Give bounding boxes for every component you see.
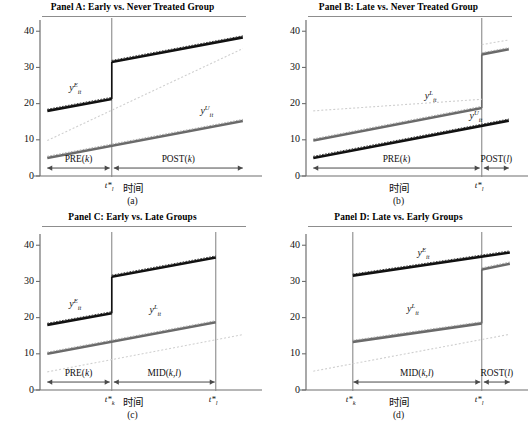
y-tick-label-40-a: 40: [6, 25, 34, 36]
span-label-close: ): [509, 154, 512, 164]
panel-d: Panel D: Late vs. Early Groups010203040y…: [266, 212, 531, 426]
y-tick-label-30-a: 30: [6, 61, 34, 72]
y-tick-label-0-a: 0: [6, 170, 34, 181]
y-tick-label-20-d: 20: [272, 311, 300, 322]
y-tick-label-10-b: 10: [272, 133, 300, 144]
series-0-seg-0-c: [47, 313, 111, 325]
span-arrowhead-0-0-d: [353, 379, 358, 384]
span-arrowhead-1-0-b: [484, 165, 489, 170]
series-label-subscript: it: [433, 96, 437, 103]
span-label-arg: k,l: [421, 368, 430, 378]
series-label-subscript: it: [415, 309, 419, 316]
span-label-text: MID(: [400, 368, 421, 378]
series-label-subscript: it: [78, 88, 82, 95]
span-label-close: ): [431, 368, 434, 378]
cut-label-k-c: t*k: [105, 394, 115, 406]
cut-label-l-a: t*l: [105, 180, 114, 192]
series-label-superscript: E: [422, 246, 426, 253]
series-label-L-b: yLit: [425, 89, 437, 103]
span-label-text: POST(: [162, 154, 188, 164]
cut-label-text: t*: [346, 394, 353, 404]
series-1-seg-0-b: [313, 121, 509, 158]
cut-label-subscript: l: [482, 185, 484, 192]
span-label-close: ): [407, 154, 410, 164]
span-arrowhead-1-1-b: [504, 165, 509, 170]
span-arrowhead-0-0-a: [47, 165, 52, 170]
y-tick-label-0-d: 0: [272, 384, 300, 395]
series-0-seg-1-a: [112, 37, 243, 62]
series-label-superscript: E: [74, 297, 78, 304]
span-label-1-a: POST(k): [152, 154, 204, 164]
span-arrowhead-1-0-a: [114, 165, 119, 170]
span-arrowhead-0-0-c: [47, 379, 52, 384]
span-label-0-b: PRE(k): [370, 154, 422, 164]
series-0-texture-0-b: [313, 106, 481, 139]
series-label-superscript: U: [205, 104, 210, 111]
y-tick-label-20-a: 20: [6, 97, 34, 108]
series-0-seg-0-b: [313, 108, 481, 141]
cut-label-subscript: l: [482, 399, 484, 406]
y-tick-label-10-c: 10: [6, 347, 34, 358]
series-0-texture-1-c: [112, 256, 216, 275]
series-1-texture-0-d: [353, 322, 482, 340]
series-label-E-d: yEit: [418, 246, 430, 260]
series-2-seg-1-b: [482, 40, 509, 45]
four-panel-figure: Panel A: Early vs. Never Treated Group01…: [0, 0, 531, 428]
series-label-L-d: yLit: [407, 302, 419, 316]
span-arrowhead-0-1-b: [475, 165, 480, 170]
cut-label-l-d: t*l: [475, 394, 484, 406]
x-axis-label-a: 时间: [123, 180, 143, 195]
series-label-subscript: it: [78, 304, 82, 311]
panel-caption-b: (b): [266, 195, 531, 206]
panel-c: Panel C: Early vs. Late Groups010203040y…: [0, 212, 265, 426]
y-tick-label-40-c: 40: [6, 239, 34, 250]
series-0-seg-1-c: [112, 258, 216, 277]
panel-caption-a: (a): [0, 195, 265, 206]
y-tick-label-20-c: 20: [6, 311, 34, 322]
span-label-close: ): [89, 154, 92, 164]
span-label-close: ): [89, 368, 92, 378]
panel-caption-d: (d): [266, 409, 531, 420]
span-arrowhead-0-0-b: [313, 165, 318, 170]
series-label-U-a: yUit: [200, 104, 213, 118]
span-label-text: POST(: [480, 154, 506, 164]
series-0-seg-0-d: [353, 252, 510, 275]
cut-label-text: t*: [209, 394, 216, 404]
series-label-subscript: it: [479, 117, 483, 124]
series-1-texture-0-a: [47, 119, 243, 156]
y-tick-label-0-c: 0: [6, 384, 34, 395]
span-label-close: ): [178, 368, 181, 378]
series-1-texture-0-b: [313, 119, 509, 156]
y-tick-label-0-b: 0: [272, 170, 300, 181]
cut-label-l-b: t*l: [475, 180, 484, 192]
series-label-superscript: U: [474, 109, 479, 116]
span-label-text: PRE(: [65, 368, 85, 378]
series-label-superscript: L: [154, 303, 158, 310]
cut-label-text: t*: [475, 394, 482, 404]
x-axis-label-d: 时间: [389, 394, 409, 409]
x-axis-label-c: 时间: [123, 394, 143, 409]
plot-area-a: [0, 2, 265, 208]
panel-b: Panel B: Late vs. Never Treated Group010…: [266, 2, 531, 208]
span-arrowhead-0-1-c: [105, 379, 110, 384]
series-label-subscript: it: [158, 310, 162, 317]
panel-caption-c: (c): [0, 409, 265, 420]
span-arrowhead-0-1-a: [105, 165, 110, 170]
cut-label-text: t*: [105, 394, 112, 404]
series-1-seg-0-c: [47, 322, 215, 353]
y-tick-label-10-d: 10: [272, 347, 300, 358]
span-label-arg: k,l: [169, 368, 178, 378]
cut-label-subscript: l: [112, 185, 114, 192]
series-0-texture-1-a: [112, 36, 243, 61]
y-tick-label-40-b: 40: [272, 25, 300, 36]
span-label-0-c: PRE(k): [52, 368, 104, 378]
span-label-1-b: POST(l): [470, 154, 522, 164]
span-arrowhead-0-1-d: [475, 379, 480, 384]
series-label-E-a: yEit: [69, 81, 81, 95]
span-label-text: PRE(: [383, 154, 403, 164]
series-label-superscript: L: [412, 302, 416, 309]
series-label-E-c: yEit: [69, 297, 81, 311]
series-2-seg-0-b: [313, 99, 481, 111]
x-axis-label-b: 时间: [389, 180, 409, 195]
span-arrowhead-1-0-c: [114, 379, 119, 384]
